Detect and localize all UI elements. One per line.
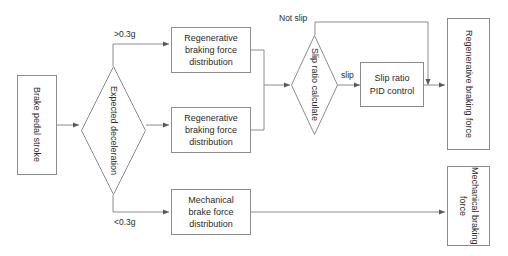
node-mechanical-braking-force[interactable]: Mechanical braking force (447, 166, 490, 246)
node-slip-ratio-pid-control[interactable]: Slip ratio PID control (360, 62, 424, 107)
node-regen-distribution-top[interactable]: Regenerative braking force distribution (171, 27, 251, 73)
edge-label-not-slip: Not slip (279, 14, 307, 23)
edge-label-lt-03g: <0.3g (114, 218, 136, 227)
edge-regen-mid-to-bus (251, 85, 264, 130)
edge-decel-to-mech (113, 195, 169, 212)
node-brake-pedal-stroke[interactable]: Brake pedal stroke (17, 75, 57, 175)
edge-label-slip: slip (341, 71, 354, 80)
node-regenerative-braking-force-label: Regenerative braking force (462, 30, 474, 138)
node-slip-ratio-calculate[interactable]: Slip ratio calculate (291, 35, 338, 135)
node-mechanical-braking-force-label: Mechanical braking force (456, 167, 480, 245)
node-slip-ratio-calculate-label-wrap: Slip ratio calculate (291, 35, 338, 135)
node-expected-deceleration-label: Expected deceleration (109, 86, 118, 175)
edge-decel-to-regen-top (113, 44, 169, 66)
node-slip-ratio-calculate-label: Slip ratio calculate (310, 48, 319, 121)
node-regenerative-braking-force[interactable]: Regenerative braking force (447, 18, 490, 150)
node-expected-deceleration-label-wrap: Expected deceleration (81, 66, 146, 195)
node-expected-deceleration[interactable]: Expected deceleration (81, 66, 146, 195)
node-mechanical-distribution[interactable]: Mechanical brake force distribution (171, 189, 251, 235)
node-regen-distribution-mid[interactable]: Regenerative braking force distribution (171, 107, 251, 153)
edge-label-gt-03g: >0.3g (114, 30, 136, 39)
connector-layer (0, 0, 508, 256)
node-regen-distribution-mid-label: Regenerative braking force distribution (184, 112, 238, 148)
node-brake-pedal-stroke-label: Brake pedal stroke (31, 87, 43, 162)
node-regen-distribution-top-label: Regenerative braking force distribution (184, 32, 238, 68)
node-mechanical-distribution-label: Mechanical brake force distribution (188, 194, 234, 230)
flowchart-canvas: Brake pedal stroke Expected deceleration… (0, 0, 508, 256)
edge-regen-top-to-bus (251, 50, 264, 85)
node-slip-ratio-pid-control-label: Slip ratio PID control (370, 72, 415, 96)
